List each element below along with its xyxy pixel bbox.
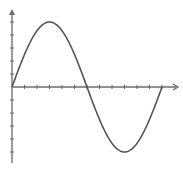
axes [9,9,178,163]
chart-canvas [0,0,183,175]
y-axis-arrow-icon [9,9,15,15]
sine-chart [0,0,183,175]
